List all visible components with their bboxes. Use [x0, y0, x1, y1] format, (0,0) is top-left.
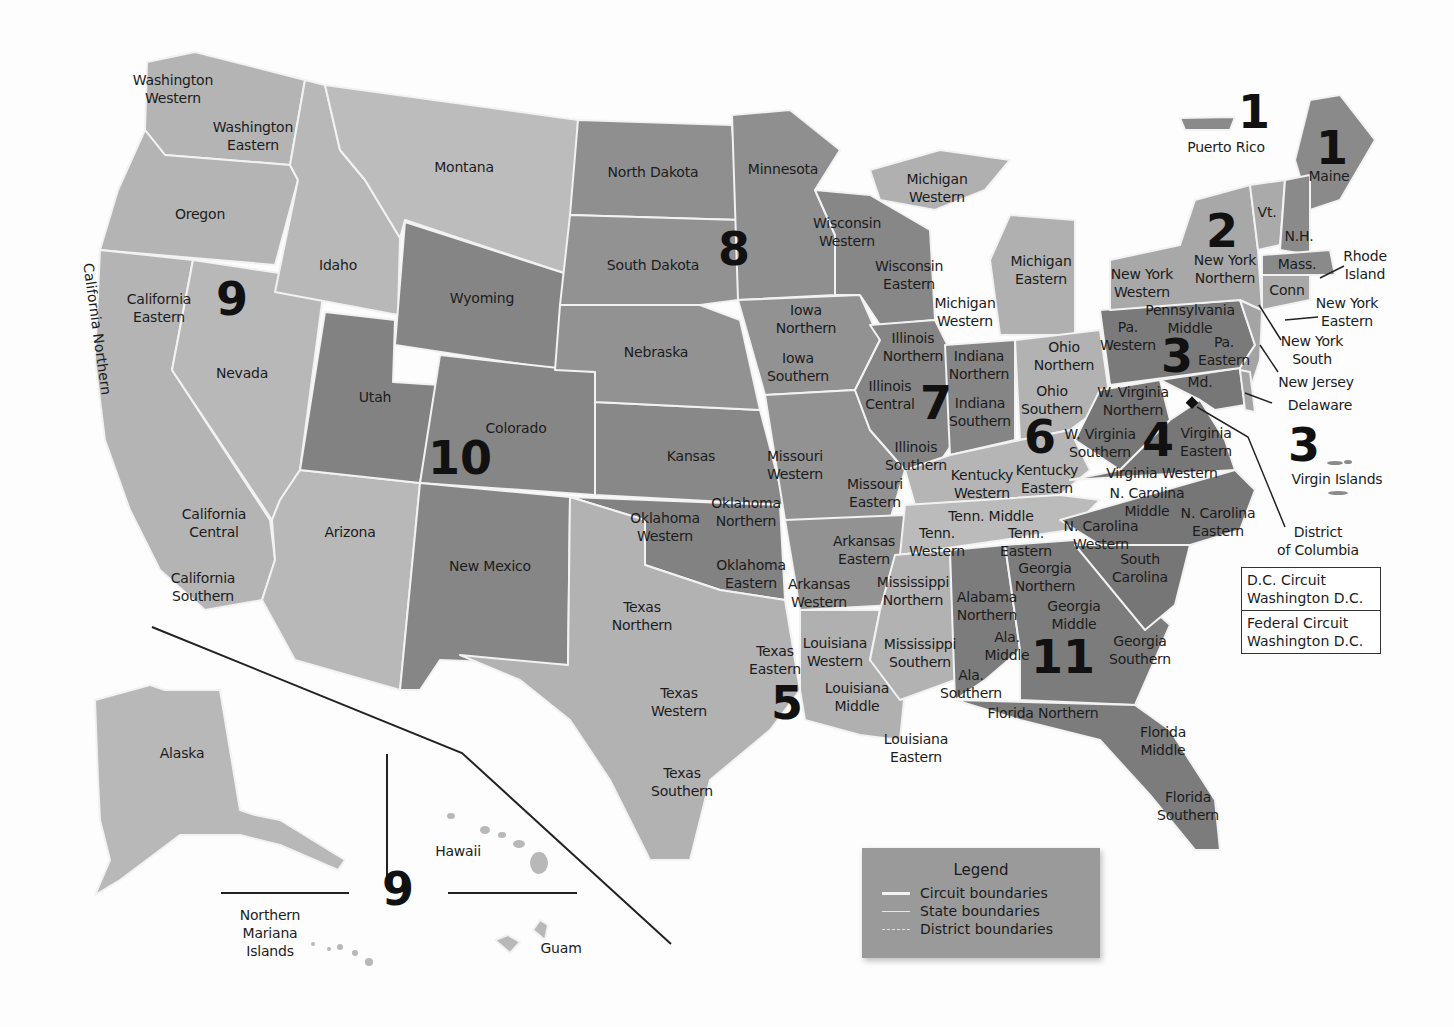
legend-label: District boundaries [920, 921, 1053, 937]
district-label: Vt. [1258, 203, 1277, 221]
district-label: N. Carolina Western [1064, 517, 1139, 553]
district-label: Washington Eastern [213, 118, 293, 154]
district-label: New York Northern [1194, 251, 1257, 287]
district-label: Mass. [1278, 255, 1317, 273]
federal-circuit-cell: Federal Circuit Washington D.C. [1242, 610, 1380, 653]
district-label: Minnesota [748, 160, 818, 178]
territory-label: Hawaii [435, 842, 481, 860]
district-label: Indiana Northern [949, 347, 1010, 383]
district-label: Texas Eastern [749, 642, 801, 678]
district-label: Idaho [319, 256, 357, 274]
district-label: Illinois Northern [883, 329, 944, 365]
district-label: Georgia Middle [1047, 597, 1101, 633]
district-label: Michigan Eastern [1010, 252, 1071, 288]
district-label: Tenn. Western [909, 524, 965, 560]
region-hawaii [533, 920, 548, 940]
district-label: Indiana Southern [949, 394, 1011, 430]
district-label: Ohio Southern [1021, 382, 1083, 418]
district-label: Mississippi Northern [877, 573, 949, 609]
district-label: Florida Middle [1140, 723, 1186, 759]
district-label: Oregon [175, 205, 225, 223]
district-label: Michigan Western [934, 294, 995, 330]
callout-label: Rhode Island [1343, 247, 1387, 283]
district-label: Arkansas Eastern [833, 532, 895, 568]
district-label: Florida Northern [987, 704, 1098, 722]
district-label: Ala. Middle [984, 628, 1029, 664]
district-label: Ala. Southern [940, 666, 1002, 702]
territory-label: Guam [540, 939, 581, 957]
district-label: N. Carolina Eastern [1181, 504, 1256, 540]
district-label: Arizona [324, 523, 375, 541]
circuit-number: 9 [216, 276, 248, 322]
district-label: Iowa Southern [767, 349, 829, 385]
callout-label: New York Eastern [1316, 294, 1379, 330]
district-label: Utah [359, 388, 391, 406]
circuit-number: 11 [1031, 634, 1095, 680]
district-label: Georgia Northern [1015, 559, 1076, 595]
district-label: Kansas [667, 447, 715, 465]
district-label: Georgia Southern [1109, 632, 1171, 668]
district-label: Louisiana Eastern [884, 730, 948, 766]
district-label: Conn [1269, 281, 1304, 299]
circuit-number: 8 [718, 226, 750, 272]
district-label: N. Carolina Middle [1110, 484, 1185, 520]
mariana-islands [311, 942, 373, 966]
circuit-number: 3 [1288, 422, 1320, 468]
district-label: California Central [182, 505, 246, 541]
district-label: Ohio Northern [1034, 338, 1095, 374]
callout-label: Delaware [1288, 396, 1352, 414]
district-label: Alabama Northern [957, 588, 1018, 624]
district-label: South Dakota [607, 256, 699, 274]
district-line-icon [882, 929, 910, 930]
region-arizona [262, 470, 420, 690]
district-label: Oklahoma Western [630, 509, 700, 545]
district-label: Md. [1188, 373, 1213, 391]
district-label: Virginia Western [1106, 464, 1217, 482]
district-label: Missouri Western [767, 447, 823, 483]
callout-label: Virgin Islands [1292, 470, 1383, 488]
district-label: California Southern [171, 569, 235, 605]
callout-label: New Jersey [1278, 373, 1354, 391]
district-label: Illinois Southern [885, 438, 947, 474]
district-label: W. Virginia Southern [1064, 425, 1136, 461]
legend-label: State boundaries [920, 903, 1040, 919]
district-label: New York Western [1111, 265, 1174, 301]
district-label: Nevada [216, 364, 268, 382]
callout-label: New York South [1281, 332, 1344, 368]
district-label: Illinois Central [865, 377, 915, 413]
region-guam [495, 935, 520, 953]
legend-label: Circuit boundaries [920, 885, 1048, 901]
state-line-icon [882, 911, 910, 912]
district-label: W. Virginia Northern [1097, 383, 1169, 419]
circuit-number: 1 [1316, 125, 1348, 171]
district-label: Kentucky Western [951, 466, 1013, 502]
circuit-number: 2 [1206, 208, 1238, 254]
circuit-number: 9 [382, 866, 414, 912]
territory-label: Northern Mariana Islands [240, 906, 301, 960]
judicial-circuit-map: 1123345678991011 Washington WesternWashi… [0, 0, 1454, 1027]
district-label: Texas Western [651, 684, 707, 720]
legend: Legend Circuit boundaries State boundari… [862, 848, 1100, 958]
district-label: Louisiana Western [803, 634, 867, 670]
circuit-number: 10 [428, 435, 492, 481]
legend-item-circuit: Circuit boundaries [882, 885, 1048, 901]
district-label: Florida Southern [1157, 788, 1219, 824]
district-label: Wyoming [450, 289, 514, 307]
region-puerto-rico [1180, 117, 1235, 130]
dc-federal-circuit-box: D.C. Circuit Washington D.C. Federal Cir… [1241, 567, 1381, 654]
circuit-number: 7 [920, 380, 952, 426]
callout-label: Puerto Rico [1187, 138, 1265, 156]
district-label: Wisconsin Western [813, 214, 881, 250]
district-label: Pennsylvania Middle [1145, 301, 1235, 337]
district-label: Montana [434, 158, 494, 176]
district-label: Virginia Eastern [1180, 424, 1232, 460]
district-label: South Carolina [1112, 550, 1168, 586]
district-label: Wisconsin Eastern [875, 257, 943, 293]
circuit-number: 6 [1024, 414, 1056, 460]
circuit-line-icon [882, 892, 910, 895]
district-label: Iowa Northern [776, 301, 837, 337]
circuit-number: 4 [1142, 417, 1174, 463]
territory-label: Alaska [160, 744, 205, 762]
callout-label: District of Columbia [1277, 523, 1359, 559]
region-alaska [95, 685, 345, 895]
